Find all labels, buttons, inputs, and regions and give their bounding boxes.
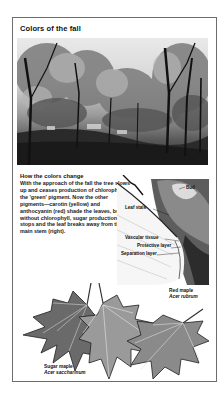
red-maple-scientific-name: Acer rubrum — [169, 294, 198, 300]
sugar-maple-common-name: Sugar maple — [44, 364, 73, 369]
label-leaf-stalk: Leaf stalk — [125, 205, 146, 210]
sugar-maple-scientific-name: Acer saccharinum — [44, 370, 86, 376]
caption-red-maple: Red maple Acer rubrum — [169, 288, 198, 300]
panel-title: Colors of the fall — [20, 24, 81, 33]
section-heading: How the colors change — [20, 173, 83, 180]
trees-illustration — [17, 38, 208, 165]
label-protective-layer: Protective layer — [137, 243, 171, 248]
label-bud: Bud — [186, 185, 195, 190]
infographic-panel: Colors of the fall — [12, 17, 217, 382]
stem-cross-section-illustration — [117, 175, 209, 285]
label-separation-layer: Separation layer — [121, 251, 157, 256]
red-maple-common-name: Red maple — [169, 288, 193, 293]
caption-sugar-maple: Sugar maple Acer saccharinum — [44, 364, 86, 376]
leaf-abscission-diagram: Bud Leaf stalk Vascular tissue Protectiv… — [117, 175, 209, 285]
label-vascular-tissue: Vascular tissue — [125, 235, 158, 240]
autumn-trees-photo — [17, 38, 208, 165]
section-body-text: With the approach of the fall the tree s… — [20, 180, 132, 235]
